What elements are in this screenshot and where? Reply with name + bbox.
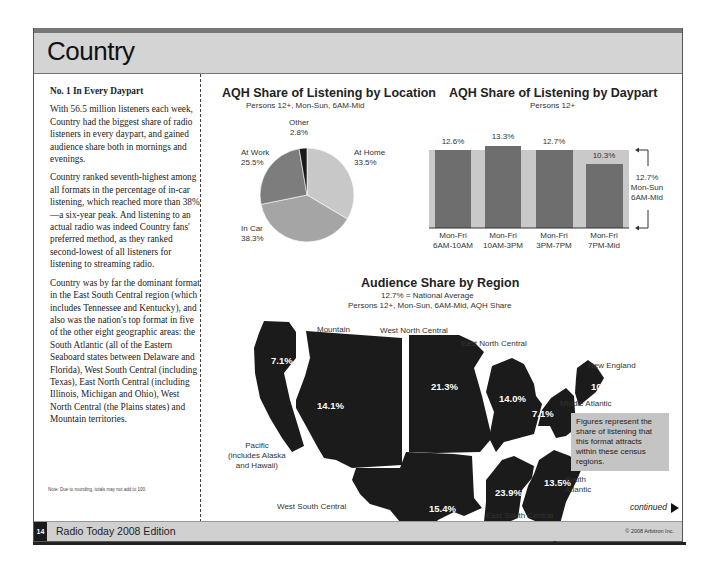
region-mountain <box>296 331 402 468</box>
page-footer: 14 Radio Today 2008 Edition © 2008 Arbit… <box>34 521 682 541</box>
map-value-east-south-central: 23.9% <box>495 487 522 498</box>
region-pacific <box>254 321 304 452</box>
map-value-middle-atlantic: 7.1% <box>532 408 554 419</box>
edition-label: Radio Today 2008 Edition <box>56 525 175 537</box>
region-east-north-central <box>486 358 542 452</box>
map-label-east-north-central: East North Central <box>461 339 527 349</box>
continued-link[interactable]: continued <box>630 502 679 513</box>
map-value-east-north-central: 14.0% <box>499 393 526 404</box>
map-label-middle-atlantic: Middle Atlantic <box>560 399 612 409</box>
map-label-south-atlantic: South Atlantic <box>565 475 591 495</box>
map-label-west-north-central: West North Central <box>380 326 448 336</box>
map-label-east-south-central: East South Central <box>486 511 553 521</box>
map-value-new-england: 10.0% <box>591 381 618 392</box>
play-arrow-icon <box>671 503 679 513</box>
map-value-mountain: 14.1% <box>317 400 344 411</box>
map-value-west-south-central: 15.4% <box>429 503 456 514</box>
map-value-pacific: 7.1% <box>271 355 293 366</box>
region-west-north-central <box>409 335 492 453</box>
map-label-pacific: Pacific (includes Alaska and Hawaii) <box>228 441 286 471</box>
map-label-new-england: New England <box>588 361 636 371</box>
map-label-mountain: Mountain <box>317 325 350 335</box>
report-page: Country No. 1 In Every Daypart With 56.5… <box>33 28 683 542</box>
copyright-text: © 2008 Arbitron Inc. <box>625 528 674 534</box>
map-note-box: Figures represent the share of listening… <box>571 413 669 471</box>
map-label-west-south-central: West South Central <box>277 502 346 512</box>
page-number: 14 <box>34 522 47 541</box>
map-value-west-north-central: 21.3% <box>431 381 458 392</box>
continued-label: continued <box>630 502 667 512</box>
